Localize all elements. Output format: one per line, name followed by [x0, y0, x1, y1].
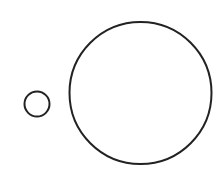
diagram-canvas [0, 0, 219, 183]
small-circle [25, 92, 50, 117]
large-circle [70, 22, 212, 164]
